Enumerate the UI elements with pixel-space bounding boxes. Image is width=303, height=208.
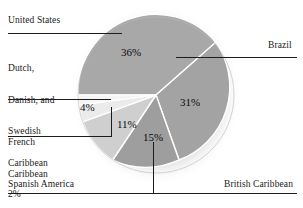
leader-line-dutch-danish-swedish [8,99,111,100]
leader-line-french-vertical [111,107,112,137]
label-brazil: Brazil [268,40,292,51]
label-united-states: United States [8,15,60,26]
pie-chart-figure: United States Dutch, Danish, and Swedish… [0,0,303,208]
value-label-united-states: 36% [121,46,141,58]
label-dutch-line-1: Dutch, [8,63,54,74]
label-spanish-america: Spanish America [8,179,74,190]
label-british-caribbean: British Caribbean [224,179,293,190]
value-label-spanish-america: 11% [117,118,137,130]
leader-line-french-horizontal [8,136,112,137]
value-label-british-caribbean: 15% [143,131,163,143]
label-french-line-2: Caribbean [8,169,48,180]
leader-line-united-states [8,33,122,34]
value-label-french-caribbean: 4% [80,101,95,113]
leader-line-spanish-horizontal [8,193,154,194]
label-french-line-1: French [8,137,48,148]
value-label-brazil: 31% [180,96,200,108]
leader-line-british-horizontal [153,193,297,194]
leader-line-brazil [176,57,297,58]
leader-line-british-vertical [153,152,154,194]
